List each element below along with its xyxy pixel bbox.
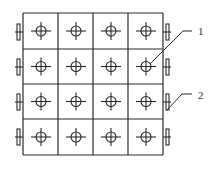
- diagram-canvas: 1 2: [0, 0, 216, 171]
- circle-crosshair-icon: [31, 128, 51, 146]
- circle-crosshair-icon: [101, 22, 121, 40]
- circle-crosshair-icon: [101, 58, 121, 76]
- circle-crosshair-icon: [66, 93, 86, 111]
- circle-crosshair-icon: [31, 58, 51, 76]
- circle-crosshair-icon: [136, 128, 156, 146]
- circle-crosshair-icon: [136, 22, 156, 40]
- callout-label-2: 2: [198, 90, 204, 101]
- circle-crosshair-icon: [136, 93, 156, 111]
- right-connector-icon: [163, 24, 171, 40]
- circle-crosshair-icon: [66, 58, 86, 76]
- circle-crosshair-icon: [31, 93, 51, 111]
- grid-diagram: [0, 0, 216, 171]
- circle-crosshair-icon: [101, 128, 121, 146]
- circle-crosshair-icon: [66, 128, 86, 146]
- left-connector-icon: [15, 24, 23, 40]
- circle-crosshair-icon: [66, 22, 86, 40]
- left-connector-icon: [15, 59, 23, 75]
- circle-crosshair-icon: [136, 58, 156, 76]
- right-connector-icon: [163, 59, 171, 75]
- left-connector-icon: [15, 129, 23, 145]
- circle-crosshair-icon: [101, 93, 121, 111]
- left-connector-icon: [15, 94, 23, 110]
- callout-label-1: 1: [198, 26, 204, 37]
- callout-leaders: [150, 31, 192, 110]
- right-connector-icon: [163, 129, 171, 145]
- circle-crosshair-icon: [31, 22, 51, 40]
- leader-line-1: [150, 31, 192, 64]
